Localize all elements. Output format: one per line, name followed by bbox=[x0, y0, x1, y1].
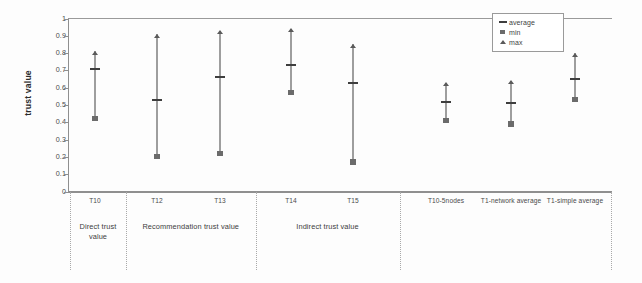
legend-item-max: max bbox=[497, 37, 559, 47]
x-axis-group-label: Indirect trust value bbox=[256, 222, 400, 232]
min-marker bbox=[154, 154, 159, 159]
min-marker bbox=[443, 118, 448, 123]
y-tick-label: 0.4 bbox=[0, 118, 66, 126]
max-marker bbox=[508, 80, 514, 84]
y-tick-label: 0.5 bbox=[0, 101, 66, 109]
x-tick-label: T15 bbox=[313, 197, 393, 205]
average-marker bbox=[215, 76, 224, 78]
min-marker bbox=[572, 97, 577, 102]
min-marker bbox=[92, 116, 97, 121]
y-tick-label: 0 bbox=[0, 188, 66, 196]
x-tick-label: T13 bbox=[180, 197, 260, 205]
max-marker bbox=[288, 28, 294, 32]
range-stem bbox=[156, 34, 157, 157]
chart-legend: average min max bbox=[492, 13, 564, 52]
range-stem bbox=[352, 44, 353, 162]
legend-item-average: average bbox=[497, 17, 559, 27]
max-marker-icon bbox=[497, 40, 508, 44]
y-tick-label: 0.7 bbox=[0, 66, 66, 74]
legend-label-average: average bbox=[508, 19, 535, 26]
average-marker bbox=[570, 78, 579, 80]
average-marker bbox=[441, 101, 450, 103]
min-marker bbox=[217, 151, 222, 156]
y-tick-label: 0.6 bbox=[0, 84, 66, 92]
min-marker bbox=[350, 159, 355, 164]
average-marker bbox=[90, 68, 99, 70]
x-axis-group-label: Direct trust value bbox=[70, 222, 126, 242]
x-axis-group-label: Recommendation trust value bbox=[126, 222, 256, 232]
y-tick-label: 0.1 bbox=[0, 170, 66, 178]
group-separator bbox=[400, 192, 401, 270]
max-marker bbox=[217, 30, 223, 34]
min-marker bbox=[288, 90, 293, 95]
range-stem bbox=[574, 53, 575, 100]
y-tick-label: 1 bbox=[0, 15, 66, 23]
average-marker bbox=[286, 64, 295, 66]
average-marker bbox=[348, 82, 357, 84]
average-marker bbox=[506, 102, 515, 104]
x-tick-label: T1-simple average bbox=[535, 197, 615, 205]
y-tick-label: 0.9 bbox=[0, 32, 66, 40]
average-marker bbox=[152, 99, 161, 101]
y-tick-label: 0.8 bbox=[0, 49, 66, 57]
max-marker bbox=[572, 53, 578, 57]
range-stem bbox=[219, 31, 220, 154]
group-separator bbox=[611, 192, 612, 270]
legend-item-min: min bbox=[497, 27, 559, 37]
max-marker bbox=[443, 82, 449, 86]
max-marker bbox=[92, 51, 98, 55]
max-marker bbox=[350, 44, 356, 48]
chart-figure: trust value 00.10.20.30.40.50.60.70.80.9… bbox=[0, 0, 642, 283]
min-marker-icon bbox=[497, 30, 508, 34]
y-tick-label: 0.3 bbox=[0, 136, 66, 144]
range-stem bbox=[94, 51, 95, 118]
min-marker bbox=[508, 121, 513, 126]
legend-label-min: min bbox=[508, 29, 521, 36]
range-stem bbox=[290, 29, 291, 93]
y-tick-label: 0.2 bbox=[0, 153, 66, 161]
legend-label-max: max bbox=[508, 39, 523, 46]
x-axis-line bbox=[68, 191, 612, 193]
max-marker bbox=[154, 34, 160, 38]
average-marker-icon bbox=[497, 21, 508, 23]
